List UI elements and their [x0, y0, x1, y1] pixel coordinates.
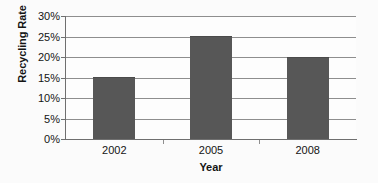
- plot-area: [66, 16, 356, 139]
- y-axis-tick-mark: [61, 37, 65, 38]
- x-axis-tick-label: 2005: [199, 144, 223, 156]
- y-axis-tick-mark: [61, 16, 65, 17]
- y-axis-tick-label: 0%: [22, 133, 60, 145]
- y-axis-tick-label: 25%: [22, 31, 60, 43]
- y-axis-tick-label: 5%: [22, 113, 60, 125]
- y-axis-tick-label: 10%: [22, 92, 60, 104]
- y-axis-tick-mark: [61, 57, 65, 58]
- y-axis-tick-label: 30%: [22, 10, 60, 22]
- y-axis-tick-label: 15%: [22, 72, 60, 84]
- x-axis-tick-label: 2002: [102, 144, 126, 156]
- x-axis-tick-mark: [259, 140, 260, 144]
- y-axis-tick-label: 20%: [22, 51, 60, 63]
- y-axis-tick-mark: [61, 139, 65, 140]
- x-axis-tick-label: 2008: [295, 144, 319, 156]
- y-axis-tick-mark: [61, 119, 65, 120]
- x-axis-tick-mark: [163, 140, 164, 144]
- x-axis-title: Year: [66, 161, 356, 173]
- x-axis-line: [65, 139, 357, 140]
- y-axis-tick-labels: 0%5%10%15%20%25%30%: [22, 10, 60, 138]
- bar-chart: Recycling Rate 0%5%10%15%20%25%30% Year …: [0, 0, 378, 183]
- bar-2008: [287, 57, 329, 139]
- y-axis-tick-mark: [61, 78, 65, 79]
- gridline: [66, 16, 356, 17]
- bar-2005: [190, 36, 232, 139]
- bar-2002: [93, 77, 135, 139]
- y-axis-tick-mark: [61, 98, 65, 99]
